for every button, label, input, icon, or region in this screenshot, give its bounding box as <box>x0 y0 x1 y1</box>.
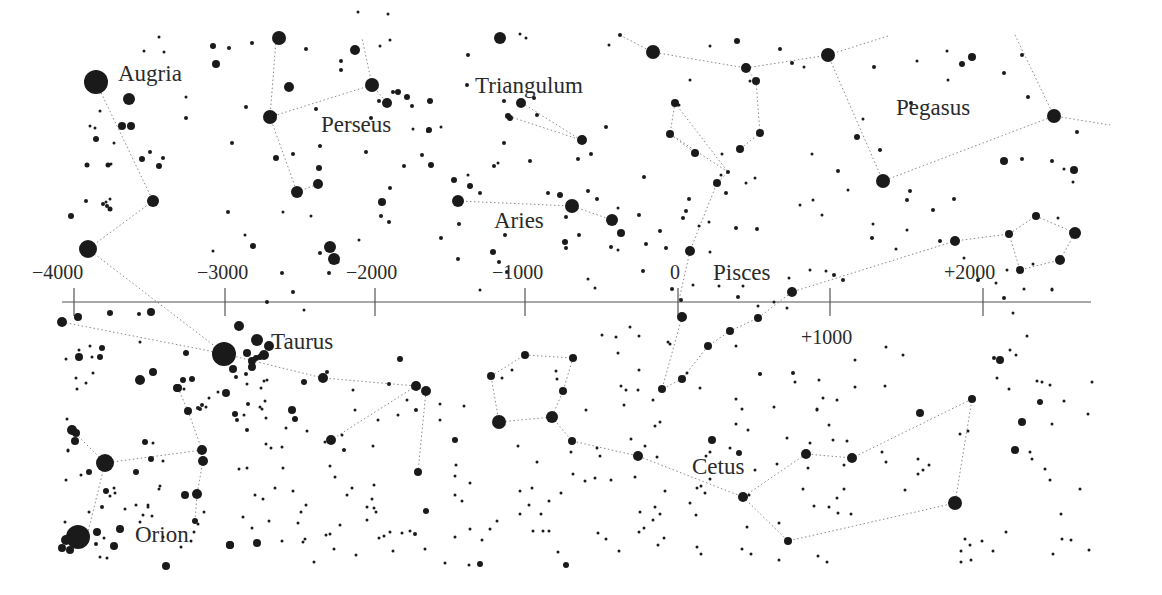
star <box>397 414 400 417</box>
star <box>726 327 734 335</box>
star <box>366 519 369 522</box>
star <box>371 498 374 501</box>
star <box>791 371 795 375</box>
star <box>629 326 632 329</box>
star <box>337 261 340 264</box>
star <box>625 389 628 392</box>
star <box>76 388 79 391</box>
star <box>300 511 303 514</box>
star <box>444 562 447 565</box>
star <box>1075 130 1079 134</box>
star <box>105 204 109 208</box>
star <box>379 45 382 48</box>
star <box>847 453 857 463</box>
star <box>854 134 860 140</box>
star <box>251 527 254 530</box>
star <box>633 451 643 461</box>
star <box>996 377 999 380</box>
star <box>654 425 657 428</box>
star <box>803 66 806 69</box>
star <box>666 130 674 138</box>
star <box>137 312 141 316</box>
star <box>355 554 358 557</box>
star <box>684 209 688 213</box>
star <box>184 116 188 120</box>
star <box>788 277 791 280</box>
axis-tick-label: +1000 <box>801 327 852 347</box>
star <box>807 467 810 470</box>
star <box>324 441 327 444</box>
star <box>787 287 797 297</box>
star <box>200 403 204 407</box>
star <box>501 377 504 380</box>
star <box>505 113 511 119</box>
star <box>786 307 789 310</box>
star <box>618 33 622 37</box>
star <box>212 60 220 68</box>
star <box>383 535 386 538</box>
star <box>606 214 618 226</box>
star <box>644 445 647 448</box>
star <box>905 198 909 202</box>
star <box>1015 354 1018 357</box>
coordinate-axis <box>62 288 1091 316</box>
star <box>735 398 738 401</box>
star <box>477 561 483 567</box>
star <box>589 152 593 156</box>
star <box>243 414 246 417</box>
star <box>1070 166 1078 174</box>
star <box>959 433 962 436</box>
axis-tick-label: +2000 <box>944 262 995 282</box>
star <box>630 438 633 441</box>
star <box>329 533 332 536</box>
constellation-label-orion: Orion <box>135 523 189 546</box>
star <box>428 162 434 168</box>
star <box>162 562 170 570</box>
star <box>387 382 391 386</box>
star <box>238 468 241 471</box>
star <box>85 382 88 385</box>
star <box>519 490 522 493</box>
star <box>305 504 308 507</box>
star <box>536 461 539 464</box>
star <box>876 174 890 188</box>
star <box>72 429 80 437</box>
star <box>124 508 127 511</box>
star <box>254 494 257 497</box>
star <box>263 110 277 124</box>
star <box>736 145 744 153</box>
star <box>916 409 924 417</box>
star <box>406 399 409 402</box>
star <box>58 544 66 552</box>
star <box>531 487 534 490</box>
star <box>709 45 712 48</box>
star <box>1057 217 1060 220</box>
star <box>749 80 752 83</box>
star <box>147 506 150 509</box>
star <box>288 406 296 414</box>
star <box>487 372 495 380</box>
star <box>318 251 322 255</box>
star <box>184 407 192 415</box>
star <box>555 370 558 373</box>
star <box>741 548 744 551</box>
star <box>502 141 506 145</box>
star <box>463 405 466 408</box>
star <box>565 199 579 213</box>
star <box>284 82 294 92</box>
star <box>71 437 79 445</box>
star <box>729 447 732 450</box>
star <box>270 447 273 450</box>
star <box>721 153 724 156</box>
star <box>88 511 91 514</box>
star <box>212 342 236 366</box>
star <box>74 313 82 321</box>
star <box>262 498 265 501</box>
star <box>440 126 443 129</box>
star <box>572 473 575 476</box>
star <box>490 249 496 255</box>
star <box>439 419 442 422</box>
star <box>1091 381 1094 384</box>
star <box>656 456 659 459</box>
star <box>350 45 360 55</box>
